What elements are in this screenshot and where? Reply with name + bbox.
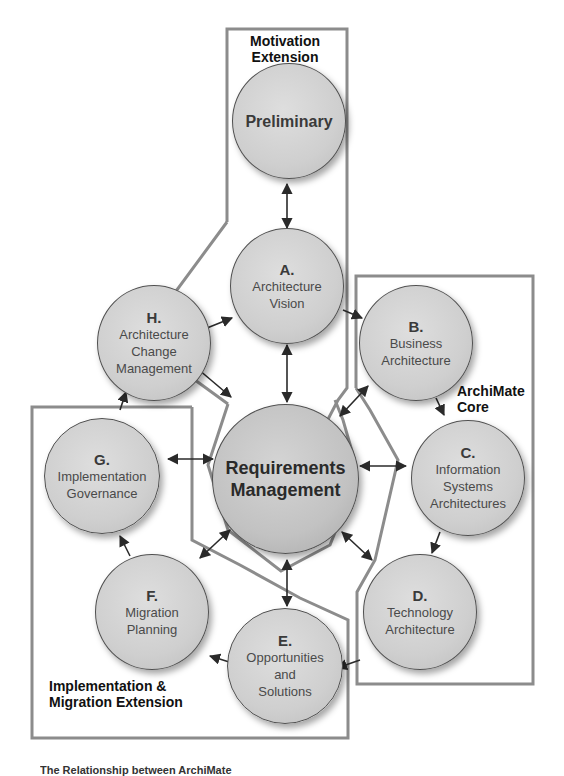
motivation-label-line1: Motivation — [250, 33, 320, 49]
node-e-letter: E. — [278, 632, 292, 649]
node-b-line1: Business — [390, 335, 443, 352]
node-d-letter: D. — [413, 587, 428, 604]
node-a-letter: A. — [280, 261, 295, 278]
motivation-extension-label: Motivation Extension — [250, 33, 320, 65]
node-requirements-management[interactable]: Requirements Management — [212, 404, 359, 554]
core-label-line1: ArchiMate — [457, 383, 525, 399]
node-h-line3: Management — [116, 360, 192, 377]
node-b-business-architecture[interactable]: B. Business Architecture — [359, 285, 473, 401]
node-rm-line2: Management — [230, 479, 340, 501]
node-f-line1: Migration — [125, 604, 178, 621]
implementation-label-line1: Implementation & — [49, 678, 183, 694]
node-h-architecture-change-management[interactable]: H. Architecture Change Management — [97, 285, 211, 401]
node-f-migration-planning[interactable]: F. Migration Planning — [95, 554, 209, 670]
node-e-line2: and — [274, 666, 296, 683]
node-e-line3: Solutions — [258, 683, 311, 700]
node-e-opportunities-solutions[interactable]: E. Opportunities and Solutions — [227, 608, 343, 724]
node-g-implementation-governance[interactable]: G. Implementation Governance — [44, 418, 160, 534]
node-c-line3: Architectures — [430, 495, 506, 512]
node-rm-line1: Requirements — [225, 457, 345, 479]
archimate-core-label: ArchiMate Core — [457, 383, 525, 415]
node-g-line2: Governance — [67, 485, 138, 502]
node-g-line1: Implementation — [58, 468, 147, 485]
core-label-line2: Core — [457, 399, 525, 415]
diagram-canvas: Motivation Extension ArchiMate Core Impl… — [0, 0, 564, 776]
node-f-letter: F. — [146, 587, 158, 604]
node-c-line1: Information — [435, 461, 500, 478]
node-a-architecture-vision[interactable]: A. Architecture Vision — [230, 228, 344, 344]
node-preliminary-label: Preliminary — [245, 113, 332, 130]
node-h-letter: H. — [147, 309, 162, 326]
node-a-line1: Architecture — [252, 278, 321, 295]
figure-caption: The Relationship between ArchiMate — [40, 764, 232, 776]
node-e-line1: Opportunities — [246, 649, 323, 666]
node-a-line2: Vision — [269, 295, 304, 312]
node-c-information-systems[interactable]: C. Information Systems Architectures — [411, 420, 525, 536]
node-preliminary[interactable]: Preliminary — [232, 63, 346, 179]
node-c-line2: Systems — [443, 478, 493, 495]
implementation-extension-label: Implementation & Migration Extension — [49, 678, 183, 710]
node-h-line1: Architecture — [119, 326, 188, 343]
implementation-label-line2: Migration Extension — [49, 694, 183, 710]
node-c-letter: C. — [461, 444, 476, 461]
node-d-line1: Technology — [387, 604, 453, 621]
node-f-line2: Planning — [127, 621, 178, 638]
node-b-letter: B. — [409, 318, 424, 335]
node-b-line2: Architecture — [381, 352, 450, 369]
node-g-letter: G. — [94, 451, 110, 468]
node-h-line2: Change — [131, 343, 177, 360]
node-d-technology-architecture[interactable]: D. Technology Architecture — [363, 554, 477, 670]
node-d-line2: Architecture — [385, 621, 454, 638]
